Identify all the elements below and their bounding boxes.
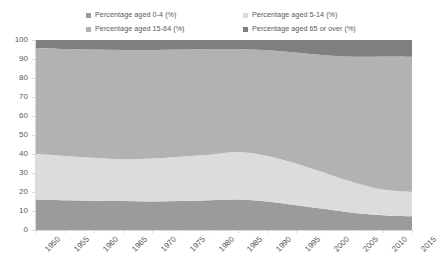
x-tick-mark — [267, 230, 268, 233]
x-tick-mark — [65, 230, 66, 233]
chart-legend: Percentage aged 0-4 (%) Percentage aged … — [86, 8, 376, 38]
x-tick-mark — [181, 230, 182, 233]
x-tick-label: 2015 — [420, 235, 438, 253]
legend-item-age-15-64[interactable]: Percentage aged 15-64 (%) — [86, 22, 231, 36]
x-tick-label: 1990 — [275, 235, 293, 253]
legend-item-age-5-14[interactable]: Percentage aged 5-14 (%) — [231, 8, 376, 22]
y-tick-mark — [32, 154, 35, 155]
y-tick-mark — [32, 230, 35, 231]
x-tick-label: 1970 — [159, 235, 177, 253]
legend-label-age-0-4: Percentage aged 0-4 (%) — [95, 11, 176, 18]
x-tick-mark — [296, 230, 297, 233]
x-tick-label: 2010 — [391, 235, 409, 253]
y-tick-label: 90 — [19, 55, 28, 63]
y-tick-label: 20 — [19, 188, 28, 196]
y-tick-mark — [32, 211, 35, 212]
plot-area — [36, 40, 412, 230]
x-tick-mark — [94, 230, 95, 233]
legend-swatch-age-5-14 — [243, 13, 248, 18]
y-tick-label: 50 — [19, 131, 28, 139]
y-tick-mark — [32, 135, 35, 136]
x-tick-label: 1985 — [246, 235, 264, 253]
x-tick-mark — [210, 230, 211, 233]
y-tick-label: 0 — [24, 226, 28, 234]
y-tick-mark — [32, 97, 35, 98]
x-tick-label: 2000 — [333, 235, 351, 253]
x-tick-label: 1995 — [304, 235, 322, 253]
x-tick-label: 1950 — [44, 235, 62, 253]
area-series-group — [36, 40, 412, 230]
legend-label-age-5-14: Percentage aged 5-14 (%) — [252, 11, 338, 18]
x-tick-mark — [36, 230, 37, 233]
y-tick-label: 30 — [19, 169, 28, 177]
x-tick-label: 1975 — [188, 235, 206, 253]
x-tick-mark — [152, 230, 153, 233]
legend-label-age-15-64: Percentage aged 15-64 (%) — [95, 25, 185, 32]
y-tick-mark — [32, 40, 35, 41]
legend-swatch-age-0-4 — [86, 13, 91, 18]
x-tick-mark — [383, 230, 384, 233]
x-tick-mark — [325, 230, 326, 233]
legend-item-age-65-over[interactable]: Percentage aged 65 or over (%) — [231, 22, 376, 36]
x-axis-labels: 1950195519601965197019751980198519901995… — [0, 234, 427, 266]
y-tick-mark — [32, 116, 35, 117]
x-tick-mark — [412, 230, 413, 233]
y-axis: 0102030405060708090100 — [0, 38, 30, 230]
y-tick-label: 80 — [19, 74, 28, 82]
y-tick-label: 60 — [19, 112, 28, 120]
y-tick-label: 100 — [15, 36, 28, 44]
x-tick-mark — [238, 230, 239, 233]
y-tick-label: 70 — [19, 93, 28, 101]
x-tick-mark — [123, 230, 124, 233]
y-tick-mark — [32, 192, 35, 193]
x-tick-label: 1960 — [102, 235, 120, 253]
y-tick-mark — [32, 173, 35, 174]
x-axis-line — [35, 230, 413, 231]
x-tick-label: 2005 — [362, 235, 380, 253]
y-tick-label: 40 — [19, 150, 28, 158]
legend-item-age-0-4[interactable]: Percentage aged 0-4 (%) — [86, 8, 231, 22]
y-tick-mark — [32, 59, 35, 60]
x-tick-label: 1965 — [131, 235, 149, 253]
y-tick-label: 10 — [19, 207, 28, 215]
y-tick-mark — [32, 78, 35, 79]
legend-swatch-age-15-64 — [86, 27, 91, 32]
x-tick-label: 1955 — [73, 235, 91, 253]
x-tick-label: 1980 — [217, 235, 235, 253]
legend-label-age-65-over: Percentage aged 65 or over (%) — [252, 25, 356, 32]
plot-wrapper: 0102030405060708090100 — [0, 38, 427, 234]
legend-swatch-age-65-over — [243, 27, 248, 32]
x-tick-mark — [354, 230, 355, 233]
